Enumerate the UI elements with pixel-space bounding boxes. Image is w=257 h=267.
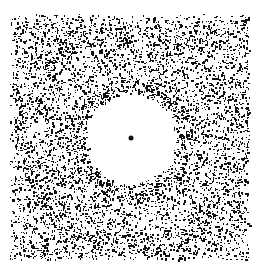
speckle-figure <box>0 0 257 267</box>
speckle-canvas <box>0 0 257 267</box>
